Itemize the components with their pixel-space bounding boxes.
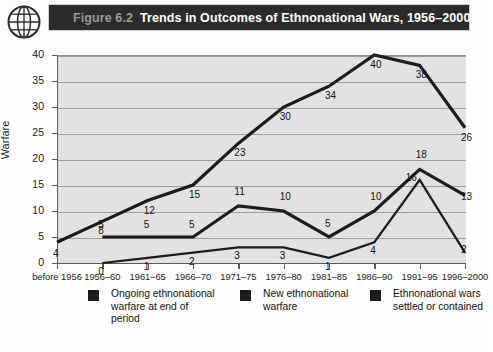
data-point-label: 15: [189, 189, 200, 200]
y-axis-label: 25: [0, 126, 44, 138]
y-axis-tick: [52, 55, 57, 56]
plot-area: [57, 55, 466, 264]
data-point-label: 16: [406, 172, 417, 183]
x-axis-tick: [420, 264, 421, 269]
data-point-label: 30: [280, 111, 291, 122]
gridline: [58, 134, 466, 135]
data-point-label: 5: [325, 218, 331, 229]
data-point-label: 2: [461, 244, 467, 255]
x-axis-tick: [374, 264, 375, 269]
y-axis-tick: [52, 237, 57, 238]
x-axis-tick: [284, 264, 285, 269]
data-point-label: 18: [416, 149, 427, 160]
legend-label-new: New ethnonational warfare: [263, 288, 360, 313]
y-axis-tick: [52, 211, 57, 212]
y-axis-tick: [52, 159, 57, 160]
legend-item-new: New ethnonational warfare: [240, 288, 360, 313]
globe-icon: [4, 2, 44, 42]
data-point-label: 1: [325, 261, 331, 272]
data-point-label: 23: [234, 147, 245, 158]
legend-label-settled: Ethnonational wars settled or contained: [393, 288, 485, 313]
data-point-label: 2: [189, 256, 195, 267]
legend-swatch-settled: [370, 290, 381, 301]
data-point-label: 4: [370, 245, 376, 256]
figure-number: Figure 6.2: [73, 11, 133, 25]
data-point-label: 5: [189, 219, 195, 230]
data-point-label: 0: [98, 266, 104, 277]
y-axis-label: 10: [0, 204, 44, 216]
chart-legend: Ongoing ethnonational warfare at end of …: [0, 288, 487, 352]
y-axis-label: 15: [0, 178, 44, 190]
data-point-label: 1: [144, 261, 150, 272]
y-axis-label: 20: [0, 152, 44, 164]
data-point-label: 26: [461, 132, 472, 143]
data-point-label: 12: [144, 205, 155, 216]
gridline: [58, 186, 466, 187]
gridline: [58, 56, 466, 57]
x-axis-line: [57, 263, 466, 264]
data-point-label: 11: [234, 186, 244, 197]
y-axis-label: 35: [0, 74, 44, 86]
data-point-label: 13: [461, 191, 472, 202]
data-point-label: 3: [234, 250, 240, 261]
data-point-label: 5: [98, 219, 104, 230]
data-point-label: 38: [416, 69, 427, 80]
figure-title: Trends in Outcomes of Ethnonational Wars…: [140, 11, 470, 25]
x-axis-tick: [465, 264, 466, 269]
chart-plot-wrapper: Warfare 0510152025303540 before 19561956…: [0, 38, 487, 278]
gridline: [58, 238, 466, 239]
legend-swatch-ongoing: [88, 290, 99, 301]
data-point-label: 34: [325, 90, 336, 101]
y-axis-tick: [52, 133, 57, 134]
data-point-label: 10: [280, 191, 291, 202]
y-axis-label: 30: [0, 100, 44, 112]
x-axis-tick: [238, 264, 239, 269]
figure-title-bar: Figure 6.2 Trends in Outcomes of Ethnona…: [48, 4, 470, 31]
y-axis-label: 40: [0, 48, 44, 60]
y-axis-tick: [52, 185, 57, 186]
data-point-label: 10: [370, 191, 381, 202]
data-point-label: 5: [144, 219, 150, 230]
legend-swatch-new: [240, 290, 251, 301]
legend-item-ongoing: Ongoing ethnonational warfare at end of …: [88, 288, 218, 326]
x-axis-tick: [57, 264, 58, 269]
y-axis-tick: [52, 81, 57, 82]
gridline: [58, 108, 466, 109]
data-point-label: 3: [280, 250, 286, 261]
y-axis-label: 0: [0, 256, 44, 268]
gridline: [58, 82, 466, 83]
x-axis-label: 1996–2000: [431, 272, 493, 282]
data-point-label: 40: [370, 59, 381, 70]
data-point-label: 4: [53, 248, 59, 259]
legend-label-ongoing: Ongoing ethnonational warfare at end of …: [111, 288, 218, 326]
y-axis-tick: [52, 107, 57, 108]
gridline: [58, 212, 466, 213]
legend-item-settled: Ethnonational wars settled or contained: [370, 288, 485, 313]
y-axis-label: 5: [0, 230, 44, 242]
gridline: [58, 160, 466, 161]
